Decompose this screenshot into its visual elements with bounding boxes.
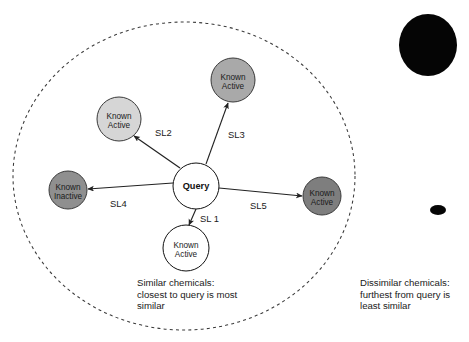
dissimilar-blob-group (399, 14, 457, 215)
edge-sl5 (219, 188, 302, 196)
edge-label-sl3: SL3 (228, 129, 245, 140)
query-label: Query (183, 181, 210, 191)
node-label-line2: Active (175, 250, 198, 259)
similarity-diagram: SL 1 SL2 SL3 SL4 SL5 Known Active Known … (0, 0, 469, 342)
node-label-line2: Active (108, 121, 131, 130)
caption-similar-line1: Similar chemicals: (137, 277, 214, 288)
edge-label-sl4: SL4 (110, 198, 127, 209)
node-label-line1: Known (55, 183, 80, 192)
node-known-active-top[interactable]: Known Active (211, 58, 255, 102)
edge-sl3 (206, 103, 228, 164)
caption-dissimilar: Dissimilar chemicals: furthest from quer… (360, 277, 450, 311)
edge-sl2 (134, 136, 180, 168)
node-query[interactable]: Query (173, 163, 219, 209)
edge-sl1 (189, 209, 196, 225)
edge-sl4 (88, 183, 173, 189)
node-label-line1: Known (173, 241, 198, 250)
caption-dissimilar-line3: least similar (360, 300, 411, 311)
node-known-active-bottom[interactable]: Known Active (163, 225, 209, 271)
caption-dissimilar-line1: Dissimilar chemicals: (360, 277, 450, 288)
node-label-line2: Active (222, 82, 245, 91)
node-label-line1: Known (220, 73, 245, 82)
node-label-line2: Inactive (54, 192, 83, 201)
diagram-canvas: SL 1 SL2 SL3 SL4 SL5 Known Active Known … (0, 0, 469, 342)
dissimilar-blob-large (399, 14, 457, 76)
node-label-line2: Active (311, 198, 334, 207)
edge-label-sl1: SL 1 (200, 213, 219, 224)
caption-similar-line3: similar (137, 300, 166, 311)
node-known-inactive-left[interactable]: Known Inactive (49, 171, 87, 209)
edge-label-sl5: SL5 (250, 200, 267, 211)
node-label-line1: Known (309, 189, 334, 198)
caption-similar-line2: closest to query is most (137, 289, 238, 300)
edge-label-sl2: SL2 (155, 127, 172, 138)
node-known-active-upper-left[interactable]: Known Active (97, 97, 141, 141)
node-label-line1: Known (106, 112, 131, 121)
caption-similar: Similar chemicals: closest to query is m… (137, 277, 238, 311)
node-known-active-right[interactable]: Known Active (303, 177, 341, 215)
dissimilar-blob-small (430, 205, 446, 215)
caption-dissimilar-line2: furthest from query is (360, 289, 450, 300)
